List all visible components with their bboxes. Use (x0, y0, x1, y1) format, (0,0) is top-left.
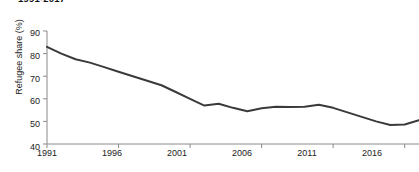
y-tick-80: 80 (16, 51, 40, 61)
chart-figure: 1991-2017 Refugee share (%) 40 50 60 70 … (0, 0, 419, 172)
x-tick-2001: 2001 (157, 148, 197, 158)
plot-area (47, 31, 419, 144)
x-tick-2016: 2016 (352, 148, 392, 158)
plot-svg (47, 31, 419, 144)
y-tick-90: 90 (16, 28, 40, 38)
x-tick-2006: 2006 (222, 148, 262, 158)
chart-title: 1991-2017 (18, 0, 65, 2)
y-tick-70: 70 (16, 74, 40, 84)
y-axis-ticks (43, 31, 47, 144)
series-line-refugee-share (47, 47, 419, 125)
x-tick-2011: 2011 (287, 148, 327, 158)
x-tick-1996: 1996 (92, 148, 132, 158)
y-tick-60: 60 (16, 96, 40, 106)
y-tick-50: 50 (16, 119, 40, 129)
x-tick-1991: 1991 (27, 148, 67, 158)
